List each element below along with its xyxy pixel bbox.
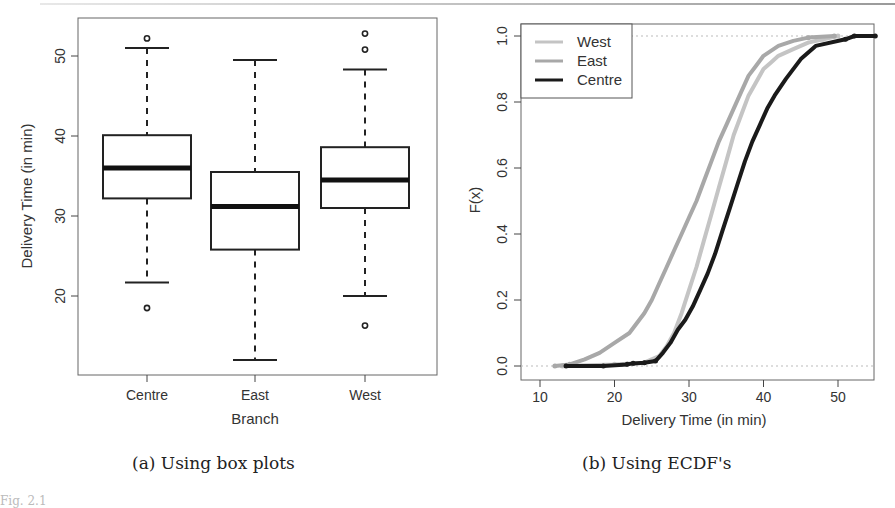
legend-label-east: East <box>577 52 608 69</box>
ecdf-point <box>631 361 636 366</box>
boxplot-panel: 20304050Delivery Time (in min)CentreEast… <box>0 0 450 430</box>
box-centre <box>103 36 191 311</box>
ecdf-caption: (b) Using ECDF's <box>582 453 732 473</box>
outlier-point <box>362 323 367 328</box>
ecdf-chart: 0.00.20.40.60.81.0F(x)1020304050Delivery… <box>450 0 895 430</box>
y-tick-label: 20 <box>52 288 68 304</box>
ecdf-point <box>832 34 837 39</box>
x-tick-label: 20 <box>607 389 623 405</box>
y-tick-label: 1.0 <box>494 26 510 46</box>
x-tick-label-east: East <box>241 387 269 403</box>
outlier-point <box>144 305 149 310</box>
legend: WestEastCentre <box>521 24 632 98</box>
ecdf-point <box>642 360 647 365</box>
x-tick-label: 50 <box>830 389 846 405</box>
box-east <box>211 60 299 360</box>
x-tick-label-west: West <box>349 387 381 403</box>
y-tick-label: 40 <box>52 128 68 144</box>
figure-label: Fig. 2.1 <box>0 494 47 508</box>
x-axis-label: Delivery Time (in min) <box>621 411 766 428</box>
ecdf-point <box>852 34 857 39</box>
x-tick-label: 30 <box>681 389 697 405</box>
ecdf-panel: 0.00.20.40.60.81.0F(x)1020304050Delivery… <box>450 0 895 430</box>
x-tick-label: 40 <box>756 389 772 405</box>
y-tick-label: 0.0 <box>494 356 510 376</box>
ecdf-point <box>653 359 658 364</box>
box-west <box>321 31 409 328</box>
y-tick-label: 0.8 <box>494 92 510 112</box>
y-tick-label: 0.6 <box>494 158 510 178</box>
outlier-point <box>144 36 149 41</box>
y-tick-label: 0.2 <box>494 290 510 310</box>
ecdf-point <box>564 364 569 369</box>
boxplot-caption: (a) Using box plots <box>132 453 295 473</box>
ecdf-point <box>552 364 557 369</box>
iqr-box <box>211 172 299 250</box>
y-tick-label: 50 <box>52 48 68 64</box>
x-tick-label-centre: Centre <box>126 387 168 403</box>
y-tick-label: 0.4 <box>494 224 510 244</box>
ecdf-point <box>625 362 630 367</box>
x-axis-label: Branch <box>231 410 279 427</box>
boxplot-chart: 20304050Delivery Time (in min)CentreEast… <box>0 0 450 430</box>
outlier-point <box>362 47 367 52</box>
legend-label-west: West <box>577 33 612 50</box>
ecdf-point <box>873 34 878 39</box>
ecdf-point <box>806 35 811 40</box>
y-axis-label: Delivery Time (in min) <box>18 123 35 268</box>
y-axis-label: F(x) <box>466 187 483 214</box>
ecdf-point <box>601 364 606 369</box>
x-tick-label: 10 <box>532 389 548 405</box>
legend-label-centre: Centre <box>577 71 622 88</box>
y-tick-label: 30 <box>52 208 68 224</box>
outlier-point <box>362 31 367 36</box>
ecdf-point <box>843 37 848 42</box>
